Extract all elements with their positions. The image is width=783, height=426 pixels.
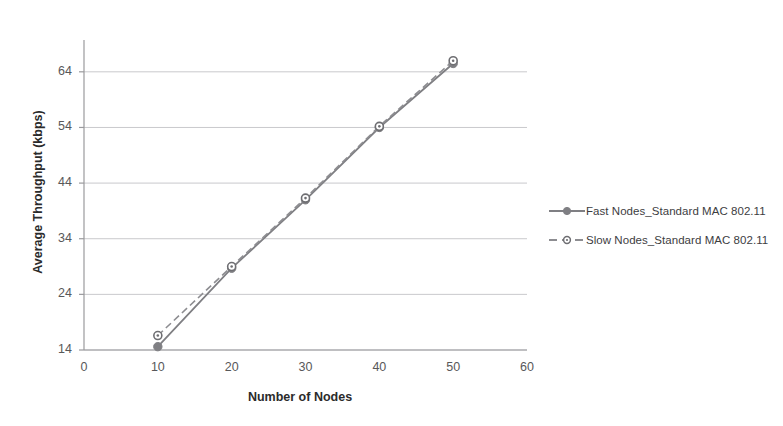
y-tick-label: 54 bbox=[32, 119, 72, 133]
legend-key-dashed-hollow-circle-icon bbox=[548, 233, 586, 247]
legend-item-slow-nodes[interactable]: Slow Nodes_Standard MAC 802.11 bbox=[548, 225, 780, 254]
data-point-center bbox=[157, 334, 160, 337]
legend-label-slow-nodes: Slow Nodes_Standard MAC 802.11 bbox=[586, 234, 768, 246]
y-tick-label: 34 bbox=[32, 231, 72, 245]
legend-item-fast-nodes[interactable]: Fast Nodes_Standard MAC 802.11 bbox=[548, 196, 780, 225]
y-tick-label: 44 bbox=[32, 175, 72, 189]
y-tick-label: 64 bbox=[32, 64, 72, 78]
plot-area: Average Throughput (kbps) Number of Node… bbox=[0, 0, 560, 426]
chart-legend: Fast Nodes_Standard MAC 802.11 Slow Node… bbox=[548, 196, 780, 254]
series-line-0 bbox=[158, 64, 453, 347]
data-point bbox=[154, 342, 162, 350]
data-point-center bbox=[378, 125, 381, 128]
x-tick-label: 10 bbox=[138, 360, 178, 374]
y-tick-label: 24 bbox=[32, 286, 72, 300]
data-point-center bbox=[452, 59, 455, 62]
legend-label-fast-nodes: Fast Nodes_Standard MAC 802.11 bbox=[586, 205, 766, 217]
x-tick-label: 60 bbox=[507, 360, 547, 374]
chart-figure: Average Throughput (kbps) Number of Node… bbox=[0, 0, 783, 426]
x-tick-label: 0 bbox=[64, 360, 104, 374]
x-tick-label: 50 bbox=[433, 360, 473, 374]
x-tick-label: 40 bbox=[359, 360, 399, 374]
legend-key-solid-filled-circle-icon bbox=[548, 204, 586, 218]
x-axis-title: Number of Nodes bbox=[200, 390, 400, 404]
y-tick-label: 14 bbox=[32, 342, 72, 356]
x-tick-label: 20 bbox=[212, 360, 252, 374]
data-point-center bbox=[230, 265, 233, 268]
data-point-center bbox=[304, 197, 307, 200]
x-tick-label: 30 bbox=[286, 360, 326, 374]
